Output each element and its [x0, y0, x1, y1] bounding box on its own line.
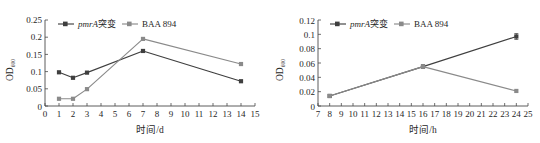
right-y-axis-title: OD600 [275, 59, 286, 81]
data-point-marker [141, 49, 145, 53]
right-y-tick-1: 0.02 [299, 87, 315, 97]
left-y-tick-3: 0.15 [26, 50, 42, 60]
series-1 [57, 49, 243, 83]
right-y-tickmarks [318, 20, 321, 106]
data-point-marker [85, 87, 89, 91]
left-x-tick-11: 11 [195, 109, 204, 119]
right-x-tick-10: 17 [430, 109, 440, 119]
left-legend-label-0-rest: 突变 [98, 18, 116, 29]
right-y-tick-2: 0.04 [299, 73, 315, 83]
right-x-tick-16: 23 [500, 109, 510, 119]
chart-panel-right: OD600 0 0.02 0.04 0.06 0.08 0.1 0.12 [270, 0, 540, 143]
left-legend: pmrA突变 BAA 894 [58, 18, 177, 29]
left-y-tick-4: 0.2 [31, 32, 42, 42]
right-x-tick-6: 13 [384, 109, 394, 119]
left-x-tick-1: 1 [57, 109, 62, 119]
right-x-tick-11: 18 [442, 109, 452, 119]
left-x-tick-2: 2 [71, 109, 76, 119]
left-x-tick-10: 10 [181, 109, 191, 119]
data-point-marker [421, 64, 425, 68]
left-x-tick-3: 3 [85, 109, 90, 119]
series-2 [328, 64, 519, 98]
series-line [59, 51, 241, 81]
left-x-tick-0: 0 [43, 109, 48, 119]
series-line [330, 67, 517, 96]
left-legend-marker-1 [127, 22, 132, 27]
data-point-marker [57, 97, 61, 101]
right-x-tick-9: 16 [419, 109, 429, 119]
svg-text:OD600: OD600 [275, 59, 286, 81]
left-y-tick-2: 0.1 [31, 67, 42, 77]
left-x-tick-9: 9 [169, 109, 174, 119]
right-legend: pmrA突变 BAA 894 [330, 18, 449, 29]
right-x-tick-4: 11 [360, 109, 369, 119]
right-legend-marker-1 [399, 22, 404, 27]
left-x-tick-5: 5 [113, 109, 118, 119]
left-legend-label-0-italic: pmrA [77, 19, 99, 29]
right-x-tick-15: 22 [489, 109, 498, 119]
left-y-axis-label-main: OD [5, 67, 15, 81]
data-point-marker [71, 97, 75, 101]
left-y-tick-1: 0.05 [26, 84, 42, 94]
left-legend-label-0: pmrA突变 [77, 18, 116, 29]
right-x-tick-7: 14 [395, 109, 405, 119]
data-point-marker [514, 34, 518, 38]
data-point-marker [239, 79, 243, 83]
right-series-group [328, 34, 519, 98]
right-legend-label-0: pmrA突变 [349, 18, 388, 29]
right-legend-marker-0 [335, 22, 340, 27]
data-point-marker [141, 37, 145, 41]
right-x-tick-13: 20 [465, 109, 475, 119]
data-point-marker [85, 71, 89, 75]
data-point-marker [57, 70, 61, 74]
left-x-tick-14: 14 [237, 109, 247, 119]
right-x-tick-8: 15 [407, 109, 417, 119]
right-x-axis-title: 时间/h [409, 124, 437, 135]
right-legend-item-1: BAA 894 [394, 19, 449, 29]
right-legend-item-0: pmrA突变 [330, 18, 388, 29]
left-x-tick-6: 6 [127, 109, 132, 119]
left-legend-label-1: BAA 894 [142, 19, 177, 29]
data-point-marker [239, 62, 243, 66]
left-legend-marker-0 [63, 22, 68, 27]
right-x-tick-2: 9 [339, 109, 344, 119]
right-x-tick-3: 10 [349, 109, 359, 119]
right-y-tick-labels: 0 0.02 0.04 0.06 0.08 0.1 0.12 [299, 16, 315, 112]
right-legend-label-0-italic: pmrA [349, 19, 371, 29]
left-x-tick-labels: 0 1 2 3 4 5 6 7 8 9 10 11 12 13 14 15 [43, 109, 260, 119]
right-x-tick-0: 7 [316, 109, 321, 119]
left-x-tick-12: 12 [209, 109, 218, 119]
right-x-tick-labels: 7 8 9 10 11 12 13 14 15 16 17 18 19 20 2… [316, 109, 533, 119]
left-y-axis-label-sub: 600 [10, 59, 16, 68]
right-y-axis-label-main: OD [275, 67, 285, 81]
right-y-tick-5: 0.1 [304, 30, 315, 40]
right-y-tick-0: 0 [311, 102, 316, 112]
right-y-axis-label-sub: 600 [280, 59, 286, 68]
svg-text:OD600: OD600 [5, 59, 16, 81]
left-y-axis-title: OD600 [5, 59, 16, 81]
figure-container: OD600 0 0.05 0.1 0.15 0.2 0.25 [0, 0, 540, 143]
right-legend-label-1: BAA 894 [414, 19, 449, 29]
left-x-tick-4: 4 [99, 109, 104, 119]
left-chart-svg: OD600 0 0.05 0.1 0.15 0.2 0.25 [0, 0, 270, 143]
right-x-tick-5: 12 [372, 109, 381, 119]
right-x-tick-12: 19 [454, 109, 464, 119]
right-y-tick-6: 0.12 [299, 16, 315, 26]
right-legend-label-0-rest: 突变 [370, 18, 388, 29]
left-x-tick-8: 8 [155, 109, 160, 119]
left-legend-item-0: pmrA突变 [58, 18, 116, 29]
right-y-tick-3: 0.06 [299, 59, 315, 69]
chart-panel-left: OD600 0 0.05 0.1 0.15 0.2 0.25 [0, 0, 270, 143]
data-point-marker [71, 76, 75, 80]
right-x-tick-17: 24 [512, 109, 522, 119]
left-y-tick-labels: 0 0.05 0.1 0.15 0.2 0.25 [26, 15, 42, 112]
right-y-tick-4: 0.08 [299, 44, 315, 54]
left-x-tick-7: 7 [141, 109, 146, 119]
left-x-tick-13: 13 [223, 109, 233, 119]
left-y-tick-5: 0.25 [26, 15, 42, 25]
left-legend-item-1: BAA 894 [122, 19, 177, 29]
left-x-tick-15: 15 [251, 109, 261, 119]
left-y-tick-0: 0 [38, 102, 43, 112]
right-x-tick-1: 8 [327, 109, 332, 119]
right-x-tick-14: 21 [477, 109, 486, 119]
